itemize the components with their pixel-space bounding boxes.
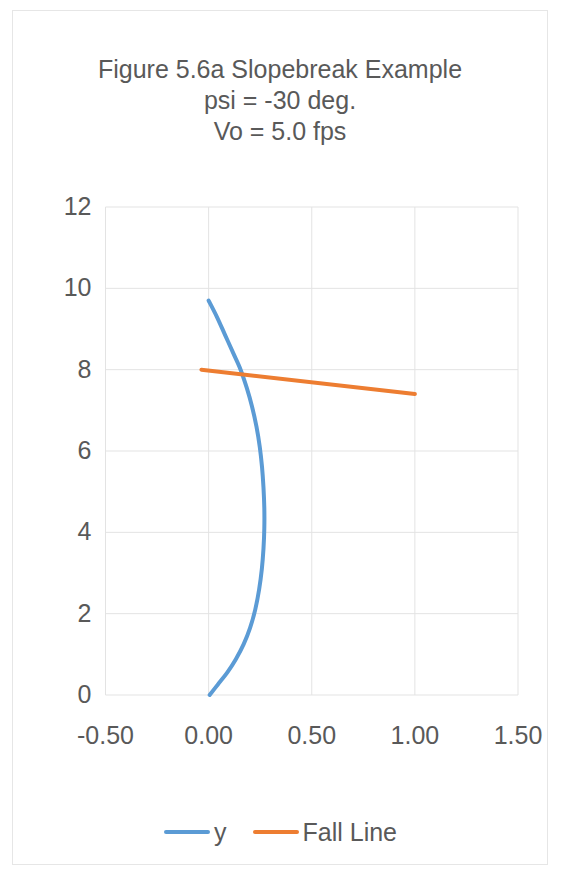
legend-item-y[interactable]: y: [164, 818, 227, 846]
y-tick-label: 6: [32, 438, 92, 463]
y-tick-label: 12: [32, 194, 92, 219]
y-tick-label: 10: [32, 275, 92, 300]
x-tick-label: 0.50: [252, 723, 372, 748]
chart-legend: yFall Line: [0, 818, 561, 846]
x-tick-label: 1.00: [355, 723, 475, 748]
gridlines-group: [106, 207, 519, 695]
legend-line-swatch-icon: [253, 830, 299, 834]
y-tick-label: 4: [32, 519, 92, 544]
y-tick-label: 2: [32, 601, 92, 626]
legend-item-fall-line[interactable]: Fall Line: [253, 818, 398, 846]
x-tick-label: 1.50: [458, 723, 561, 748]
chart-figure: Figure 5.6a Slopebreak Example psi = -30…: [0, 0, 561, 872]
y-tick-label: 0: [32, 682, 92, 707]
legend-item-label: Fall Line: [303, 818, 398, 846]
x-tick-label: 0.00: [149, 723, 269, 748]
series-line-y: [209, 301, 265, 695]
legend-line-swatch-icon: [164, 830, 210, 834]
series-line-fall-line: [201, 370, 414, 394]
legend-item-label: y: [214, 818, 227, 846]
y-tick-label: 8: [32, 357, 92, 382]
x-tick-label: -0.50: [46, 723, 166, 748]
series-group: [201, 301, 414, 695]
